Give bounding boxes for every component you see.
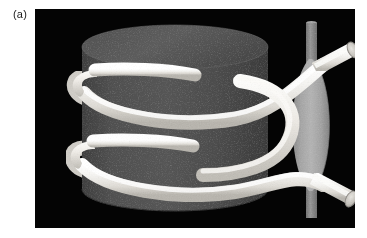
figure-root: (a) [0,0,367,238]
scene-image-panel [35,9,355,228]
panel-label: (a) [13,8,27,21]
scene-illustration [35,9,355,228]
